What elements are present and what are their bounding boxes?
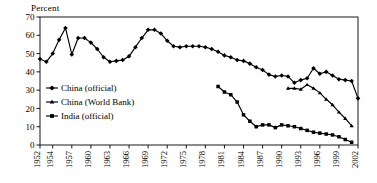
data-point: [216, 49, 221, 54]
data-point: [286, 124, 290, 128]
x-tick-label: 1996: [312, 151, 322, 168]
data-point: [280, 123, 284, 127]
y-tick-label: 10: [26, 122, 36, 132]
data-point: [305, 83, 309, 86]
series-1: [286, 83, 354, 128]
data-point: [274, 126, 278, 130]
data-point: [330, 73, 335, 78]
x-tick-label: 1978: [197, 151, 207, 168]
data-point: [331, 133, 335, 137]
legend-marker-square: [50, 114, 54, 118]
x-tick-label: 1981: [216, 151, 226, 168]
data-point: [312, 130, 316, 134]
x-tick-label: 1999: [331, 151, 341, 168]
data-point: [223, 90, 227, 94]
x-tick-label: 1984: [236, 150, 246, 168]
plot-frame: [40, 17, 358, 145]
series-2: [216, 85, 353, 144]
data-point: [229, 93, 233, 97]
data-point: [279, 73, 284, 78]
chart-svg: 0102030405060701952195419571960196319661…: [0, 0, 377, 183]
data-point: [178, 45, 183, 50]
data-point: [305, 129, 309, 133]
y-tick-label: 40: [26, 67, 36, 77]
data-point: [261, 123, 265, 127]
data-point: [203, 45, 208, 50]
data-point: [63, 26, 68, 31]
data-point: [184, 44, 189, 49]
y-tick-label: 30: [26, 85, 36, 95]
data-point: [343, 78, 348, 83]
x-tick-label: 1993: [293, 151, 303, 168]
data-point: [152, 28, 157, 33]
x-tick-label: 2002: [350, 151, 360, 168]
legend-label: China (World Bank): [61, 97, 134, 107]
data-point: [209, 47, 214, 52]
data-point: [324, 132, 328, 136]
chart-figure: Percent 01020304050607019521954195719601…: [0, 0, 377, 183]
data-point: [293, 125, 297, 129]
x-tick-label: 1972: [159, 151, 169, 168]
y-tick-label: 60: [26, 30, 36, 40]
data-point: [318, 131, 322, 135]
x-tick-label: 1975: [178, 151, 188, 168]
legend-marker-diamond: [49, 85, 54, 90]
data-point: [337, 135, 341, 139]
legend: China (official)China (World Bank)India …: [46, 83, 134, 121]
data-point: [344, 138, 348, 142]
plot-area: 0102030405060701952195419571960196319661…: [0, 0, 377, 183]
data-point: [242, 113, 246, 117]
y-tick-label: 50: [26, 49, 36, 59]
data-point: [114, 59, 119, 64]
x-tick-label: 1966: [121, 151, 131, 168]
data-point: [248, 61, 253, 66]
x-tick-label: 1963: [102, 151, 112, 168]
data-point: [76, 36, 81, 41]
y-tick-label: 20: [26, 104, 36, 114]
x-tick-label: 1957: [64, 151, 74, 168]
series-line: [288, 85, 352, 126]
data-point: [298, 78, 303, 83]
data-point: [299, 127, 303, 130]
x-tick-label: 1952: [32, 151, 42, 168]
x-tick-label: 1954: [45, 150, 55, 168]
data-point: [248, 119, 252, 123]
legend-label: India (official): [61, 111, 114, 121]
data-point: [235, 58, 240, 63]
data-point: [324, 70, 329, 75]
data-point: [254, 65, 259, 70]
data-point: [229, 55, 234, 60]
data-point: [273, 74, 278, 79]
x-tick-label: 1990: [274, 151, 284, 168]
data-point: [241, 59, 246, 64]
data-point: [70, 52, 75, 57]
data-point: [190, 44, 195, 49]
y-tick-label: 0: [30, 140, 35, 150]
data-point: [38, 57, 43, 62]
data-point: [350, 141, 354, 145]
data-point: [349, 79, 354, 84]
x-tick-label: 1960: [83, 151, 93, 168]
data-point: [235, 100, 239, 104]
data-point: [267, 123, 271, 127]
data-point: [356, 96, 361, 101]
data-point: [254, 125, 257, 129]
legend-label: China (official): [61, 83, 117, 93]
data-point: [197, 44, 202, 49]
x-tick-label: 1987: [255, 151, 265, 168]
data-point: [216, 85, 220, 89]
data-point: [120, 58, 125, 63]
data-point: [337, 77, 342, 82]
y-tick-label: 70: [26, 12, 36, 22]
data-point: [222, 53, 227, 58]
x-tick-label: 1969: [140, 151, 150, 168]
data-point: [57, 38, 62, 43]
